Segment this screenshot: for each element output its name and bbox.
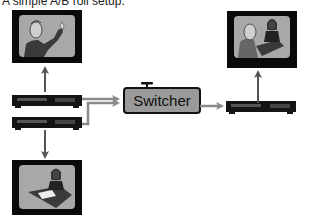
arrow-vcr-b-to-switcher xyxy=(82,103,118,124)
monitor-program xyxy=(227,11,297,68)
vcr-record xyxy=(226,101,296,114)
vcr-b xyxy=(12,117,82,130)
monitor-b xyxy=(12,160,82,215)
ab-roll-diagram xyxy=(0,0,321,221)
switcher xyxy=(124,82,200,113)
monitor-a xyxy=(12,10,82,63)
vcr-a xyxy=(12,95,82,108)
